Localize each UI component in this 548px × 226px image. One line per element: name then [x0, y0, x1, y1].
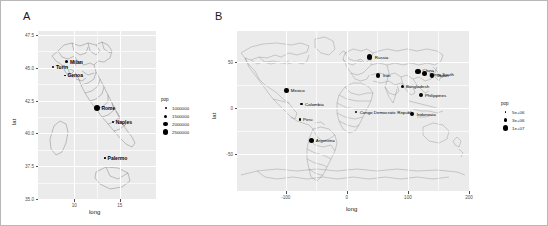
xaxis-tickmark — [347, 191, 348, 194]
yaxis-tick-label: 37.5 — [25, 164, 34, 169]
city-label: Indonesia — [417, 111, 436, 116]
xaxis-tick-label: 200 — [465, 195, 473, 200]
legend-dot-icon — [503, 125, 508, 130]
panel-a-xaxis-title: long — [89, 209, 100, 215]
yaxis-tickmark — [36, 68, 39, 69]
legend-entry-label: 1500000 — [172, 114, 189, 119]
city-label: Milan — [70, 59, 83, 65]
legend-entry: 1000000 — [161, 104, 189, 112]
legend-entry-label: 2500000 — [172, 130, 189, 135]
legend-dot-icon — [163, 122, 167, 126]
city-point — [104, 157, 106, 159]
panel-b-xaxis-title: long — [346, 206, 357, 212]
legend-entry-label: 5e+06 — [512, 110, 524, 115]
yaxis-tick-label: 40.0 — [25, 131, 34, 136]
legend-entry-label: 1000000 — [172, 106, 189, 111]
gridline-minor-horizontal — [38, 150, 156, 151]
gridline-minor-vertical — [316, 31, 317, 191]
panel-b-yaxis-title: lat — [211, 113, 217, 119]
yaxis-tick-label: -50 — [226, 152, 233, 157]
legend-entry: 3e+06 — [501, 116, 524, 124]
legend-dot-icon — [165, 107, 167, 109]
legend-entry-label: 1e+07 — [512, 126, 524, 131]
gridline-horizontal — [237, 154, 469, 155]
gridline-minor-horizontal — [38, 84, 156, 85]
legend-dot-icon — [163, 129, 169, 135]
city-point — [419, 93, 423, 97]
city-label: Rome — [101, 105, 115, 111]
legend-entry-label: 3e+06 — [512, 118, 524, 123]
xaxis-tickmark — [74, 199, 75, 202]
yaxis-tickmark — [36, 133, 39, 134]
city-point — [367, 54, 372, 59]
gridline-minor-horizontal — [38, 117, 156, 118]
legend-key-icon — [161, 122, 170, 126]
legend-key-icon — [161, 115, 170, 118]
gridline-minor-horizontal — [237, 85, 469, 86]
panel-a-plot-area — [38, 31, 156, 199]
xaxis-tickmark — [286, 191, 287, 194]
xaxis-tick-label: 10 — [72, 203, 77, 208]
city-label: Iran — [383, 73, 391, 78]
panel-a-legend-entries: 1000000150000020000002500000 — [161, 104, 189, 136]
city-label: Mexico — [291, 88, 305, 93]
yaxis-tick-label: 0 — [230, 106, 233, 111]
panel-b-letter: B — [215, 10, 222, 22]
legend-key-icon — [501, 118, 510, 121]
gridline-minor-vertical — [97, 31, 98, 199]
gridline-horizontal — [237, 108, 469, 109]
panel-b-legend-title: pop — [501, 101, 524, 106]
city-point — [299, 118, 302, 121]
yaxis-tickmark — [36, 35, 39, 36]
city-label: Palermo — [108, 155, 128, 161]
panel-b-legend-entries: 5e+063e+061e+07 — [501, 108, 524, 132]
xaxis-tick-label: 15 — [117, 203, 122, 208]
panel-a-letter: A — [23, 10, 30, 22]
legend-dot-icon — [505, 111, 507, 113]
xaxis-tickmark — [120, 199, 121, 202]
city-label: Japan — [437, 73, 449, 78]
legend-entry: 2000000 — [161, 120, 189, 128]
yaxis-tickmark — [36, 199, 39, 200]
xaxis-tick-label: -100 — [281, 195, 290, 200]
city-label: Philippines — [425, 92, 446, 97]
gridline-minor-vertical — [438, 31, 439, 191]
panel-a-yaxis-title: lat — [11, 119, 17, 125]
yaxis-tick-label: 47.5 — [25, 32, 34, 37]
city-point — [401, 85, 404, 88]
xaxis-tick-label: 100 — [404, 195, 412, 200]
panel-a-legend-title: pop — [161, 97, 189, 102]
gridline-vertical — [286, 31, 287, 191]
yaxis-tickmark — [235, 108, 238, 109]
legend-key-icon — [501, 125, 510, 130]
xaxis-tick-label: 0 — [346, 195, 349, 200]
legend-entry: 1500000 — [161, 112, 189, 120]
yaxis-tick-label: 50 — [228, 60, 233, 65]
legend-dot-icon — [164, 115, 167, 118]
legend-key-icon — [161, 107, 170, 109]
city-label: Argentina — [316, 138, 335, 143]
city-label: Congo Democratic Republic — [360, 110, 415, 115]
yaxis-tickmark — [235, 154, 238, 155]
yaxis-tick-label: 42.5 — [25, 98, 34, 103]
city-label: Peru — [303, 117, 312, 122]
gridline-vertical — [120, 31, 121, 199]
xaxis-tickmark — [469, 191, 470, 194]
legend-entry: 5e+06 — [501, 108, 524, 116]
gridline-vertical — [74, 31, 75, 199]
xaxis-tickmark — [408, 191, 409, 194]
legend-entry: 2500000 — [161, 128, 189, 136]
gridline-vertical — [347, 31, 348, 191]
yaxis-tickmark — [36, 101, 39, 102]
legend-key-icon — [501, 111, 510, 113]
city-label: Genoa — [67, 72, 83, 78]
yaxis-tick-label: 45.0 — [25, 65, 34, 70]
gridline-horizontal — [237, 62, 469, 63]
city-label: Naples — [116, 119, 132, 125]
panel-a-legend: pop 1000000150000020000002500000 — [161, 97, 189, 136]
city-label: Turin — [56, 64, 68, 70]
gridline-minor-horizontal — [38, 183, 156, 184]
legend-key-icon — [161, 129, 170, 135]
city-point — [415, 69, 420, 74]
yaxis-tick-label: 35.0 — [25, 197, 34, 202]
